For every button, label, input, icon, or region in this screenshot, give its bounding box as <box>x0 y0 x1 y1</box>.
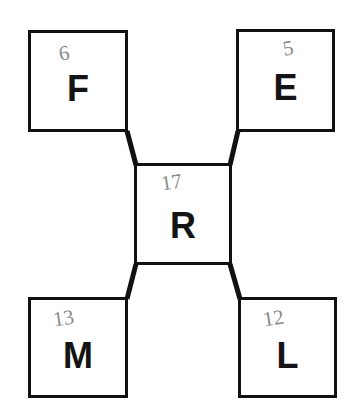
node-label-f: F <box>31 71 125 107</box>
edge-m-to-r <box>127 264 136 299</box>
edge-f-to-r <box>127 131 136 165</box>
node-annotation-e: 5 <box>281 37 295 59</box>
node-box-l[interactable]: 12 L <box>238 297 337 398</box>
node-box-m[interactable]: 13 M <box>28 297 128 398</box>
node-box-f[interactable]: 6 F <box>28 30 128 132</box>
node-label-r: R <box>137 208 229 244</box>
node-annotation-m: 13 <box>51 306 75 330</box>
node-annotation-l: 12 <box>261 306 285 330</box>
edge-e-to-r <box>230 131 238 165</box>
node-annotation-r: 17 <box>159 170 183 194</box>
node-annotation-f: 6 <box>57 42 71 64</box>
node-label-e: E <box>239 70 332 106</box>
edge-l-to-r <box>230 264 240 299</box>
node-label-l: L <box>241 338 334 374</box>
node-label-m: M <box>31 338 125 374</box>
node-diagram: 6 F 5 E 17 R 13 M 12 L <box>0 0 355 415</box>
node-box-r[interactable]: 17 R <box>134 163 232 265</box>
node-box-e[interactable]: 5 E <box>236 29 335 132</box>
